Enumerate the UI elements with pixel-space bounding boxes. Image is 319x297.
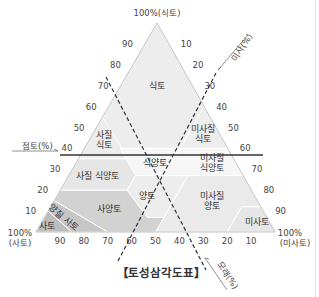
region-label-sandy-clay-loam: 사질 식양토: [76, 170, 119, 181]
corner-label-sand-line2: (사토): [9, 238, 32, 248]
tick-silt-80: 80: [263, 185, 274, 195]
triangle-canvas: 9080706050403020101020304050607080909080…: [0, 0, 319, 297]
region-label-sand: 사토: [39, 221, 55, 231]
frame-border: [315, 0, 316, 297]
tick-silt-10: 10: [181, 39, 192, 49]
tick-clay-30: 30: [49, 164, 60, 174]
tick-sand-30: 30: [198, 236, 209, 246]
tick-sand-50: 50: [150, 236, 161, 246]
tick-sand-40: 40: [174, 236, 185, 246]
corner-label-silt-line2: (미사토): [280, 238, 311, 248]
tick-sand-20: 20: [222, 236, 233, 246]
tick-sand-70: 70: [102, 236, 113, 246]
tick-silt-60: 60: [240, 143, 251, 153]
tick-silt-90: 90: [275, 206, 286, 216]
tick-silt-20: 20: [193, 60, 204, 70]
axis-label-clay: 점토(%): [22, 141, 53, 151]
region-label-sandy-loam: 사양토: [97, 204, 121, 214]
soil-texture-triangle: 9080706050403020101020304050607080909080…: [0, 0, 319, 297]
region-label-clay-loam: 식양토: [143, 158, 167, 168]
tick-sand-10: 10: [246, 236, 257, 246]
tick-sand-80: 80: [78, 236, 89, 246]
region-label-clay: 식토: [149, 81, 165, 91]
tick-clay-20: 20: [37, 185, 48, 195]
tick-clay-80: 80: [110, 60, 121, 70]
tick-clay-70: 70: [98, 81, 109, 91]
region-label-sandy-clay: 사질식토: [96, 129, 112, 150]
tick-clay-60: 60: [86, 102, 97, 112]
corner-label-clay: 100%(식토): [134, 8, 181, 18]
tick-sand-90: 90: [54, 236, 65, 246]
tick-silt-50: 50: [228, 123, 239, 133]
tick-clay-40: 40: [62, 143, 73, 153]
tick-clay-10: 10: [25, 206, 36, 216]
axis-label-silt: 미사(%): [229, 32, 254, 63]
region-label-silt: 미사토: [245, 217, 269, 227]
tick-silt-40: 40: [216, 102, 227, 112]
tick-silt-70: 70: [252, 164, 263, 174]
corner-label-silt-line1: 100%: [278, 228, 302, 238]
axis-label-sand: 모래(%): [215, 260, 240, 291]
tick-clay-50: 50: [74, 123, 85, 133]
diagram-caption: 【토성삼각도표】: [117, 266, 205, 280]
region-label-loam: 양토: [139, 191, 155, 201]
corner-label-sand-line1: 100%: [8, 228, 32, 238]
tick-clay-90: 90: [122, 39, 133, 49]
